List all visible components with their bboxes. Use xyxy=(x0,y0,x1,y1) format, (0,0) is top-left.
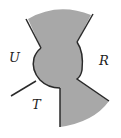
boundary-t-line xyxy=(11,81,36,96)
label-t: T xyxy=(32,97,42,112)
label-r: R xyxy=(98,53,109,68)
region-diagram: U R T xyxy=(0,0,121,138)
label-u: U xyxy=(9,50,21,65)
